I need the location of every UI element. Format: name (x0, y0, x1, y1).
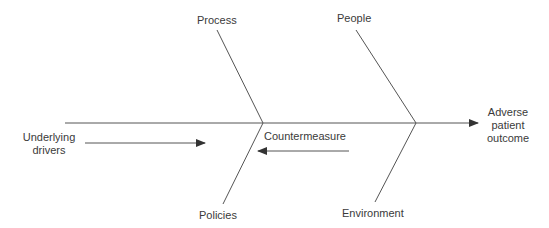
effect-line-3: outcome (478, 132, 538, 145)
bone-people (356, 30, 416, 123)
cause-label-people: People (337, 12, 371, 25)
fishbone-diagram (0, 0, 549, 228)
bone-environment (375, 123, 416, 202)
effect-line-1: Adverse (478, 106, 538, 119)
bone-process (217, 30, 263, 123)
effect-label: Adverse patient outcome (478, 106, 538, 145)
cause-label-environment: Environment (342, 207, 404, 220)
bone-policies (223, 123, 263, 204)
underlying-drivers-line-1: Underlying (16, 131, 82, 144)
underlying-drivers-label: Underlying drivers (16, 131, 82, 157)
underlying-drivers-line-2: drivers (16, 144, 82, 157)
cause-label-process: Process (197, 14, 237, 27)
cause-label-policies: Policies (199, 209, 237, 222)
countermeasure-label: Countermeasure (264, 130, 346, 143)
effect-line-2: patient (478, 119, 538, 132)
